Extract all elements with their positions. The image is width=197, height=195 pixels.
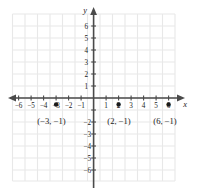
x-tick-label-pos5: 5 [154, 102, 158, 110]
x-tick-label-neg5: −5 [27, 102, 35, 110]
coordinate-plane-svg: −6 −5 −4 −3 −2 −1 1 2 3 4 5 6 6 5 4 3 2 … [0, 0, 197, 195]
y-tick-label-pos2: 2 [84, 71, 88, 79]
point-label-neg3-neg1: (−3, −1) [37, 116, 65, 126]
y-tick-label-neg3: −3 [83, 131, 91, 139]
y-tick-label-pos3: 3 [84, 59, 88, 67]
x-tick-label-pos4: 4 [142, 102, 146, 110]
x-tick-label-neg6: −6 [15, 102, 23, 110]
y-tick-label-pos6: 6 [84, 23, 88, 31]
point-marker-neg3-neg1[interactable] [54, 102, 58, 106]
y-tick-label-neg2: −2 [83, 119, 91, 127]
x-axis-name-label: x [182, 100, 187, 109]
y-tick-label-pos5: 5 [84, 35, 88, 43]
x-tick-label-neg2: −2 [65, 102, 73, 110]
x-tick-label-pos1: 1 [104, 102, 108, 110]
y-tick-label-neg5: −5 [83, 155, 91, 163]
point-label-6-neg1: (6, −1) [153, 116, 177, 126]
point-label-2-neg1: (2, −1) [107, 116, 131, 126]
y-axis-name-label: y [82, 6, 87, 15]
point-marker-6-neg1[interactable] [166, 102, 170, 106]
x-tick-label-pos3: 3 [129, 102, 133, 110]
coordinate-plane-figure: −6 −5 −4 −3 −2 −1 1 2 3 4 5 6 6 5 4 3 2 … [0, 0, 197, 195]
y-tick-label-pos1: 1 [84, 83, 88, 91]
x-tick-label-neg1: −1 [77, 102, 85, 110]
x-tick-label-neg4: −4 [40, 102, 48, 110]
y-tick-label-neg6: −6 [83, 167, 91, 175]
y-tick-label-neg4: −4 [83, 143, 91, 151]
point-marker-2-neg1[interactable] [116, 102, 120, 106]
y-tick-label-pos4: 4 [84, 47, 88, 55]
